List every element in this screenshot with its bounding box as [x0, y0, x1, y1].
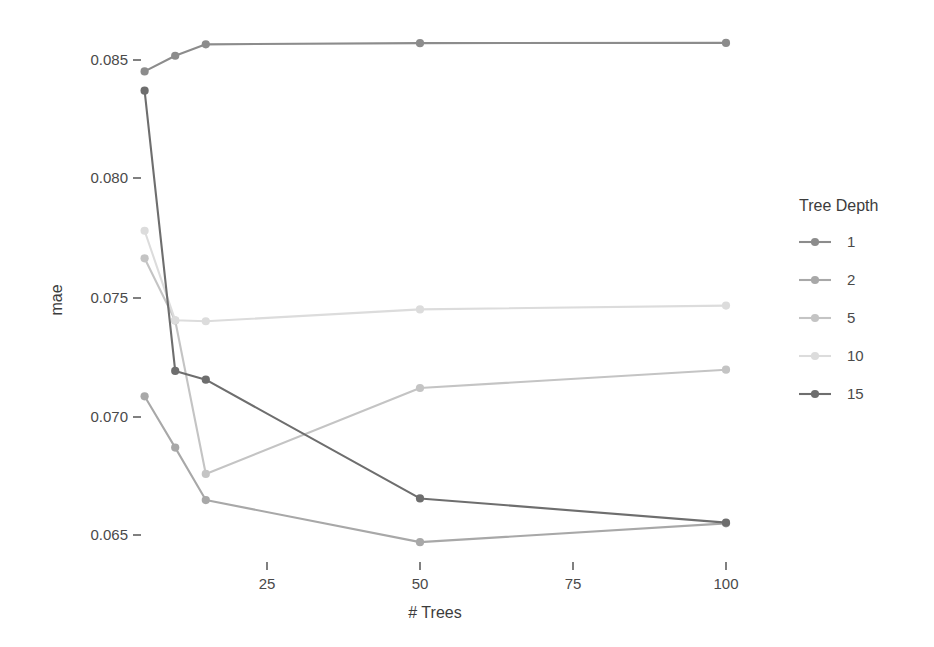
series-line — [145, 231, 726, 321]
legend-key-point — [811, 352, 819, 360]
data-point — [202, 317, 210, 325]
chart-container: 0.085 0.080 0.075 0.070 0.065 mae 25 50 — [0, 0, 934, 647]
legend-item-10[interactable]: 10 — [799, 347, 864, 364]
data-point — [416, 39, 424, 47]
data-point — [141, 67, 149, 75]
data-point — [722, 39, 730, 47]
data-point — [141, 254, 149, 262]
legend-key-point — [811, 276, 819, 284]
legend-key-point — [811, 314, 819, 322]
series-2 — [141, 392, 731, 546]
legend-label: 5 — [847, 309, 855, 326]
legend-item-5[interactable]: 5 — [799, 309, 855, 326]
legend-label: 10 — [847, 347, 864, 364]
series-5 — [141, 254, 731, 478]
x-tick-label: 25 — [259, 575, 276, 592]
data-point — [171, 52, 179, 60]
data-point — [202, 470, 210, 478]
data-point — [171, 316, 179, 324]
legend: Tree Depth 1251015 — [799, 197, 878, 402]
y-axis-tick-marks — [133, 60, 141, 535]
y-axis-tick-labels: 0.085 0.080 0.075 0.070 0.065 — [90, 51, 128, 543]
series-line — [145, 43, 726, 72]
data-point — [171, 367, 179, 375]
data-point — [416, 305, 424, 313]
data-point — [171, 444, 179, 452]
data-point — [416, 384, 424, 392]
data-point — [722, 301, 730, 309]
y-tick-label: 0.065 — [90, 526, 128, 543]
x-tick-label: 75 — [565, 575, 582, 592]
series-1 — [141, 39, 731, 76]
data-series-layer — [141, 39, 731, 546]
legend-key-point — [811, 390, 819, 398]
data-point — [202, 376, 210, 384]
line-chart-plot: 0.085 0.080 0.075 0.070 0.065 mae 25 50 — [0, 0, 934, 647]
y-tick-label: 0.070 — [90, 408, 128, 425]
legend-item-1[interactable]: 1 — [799, 233, 855, 250]
y-tick-label: 0.085 — [90, 51, 128, 68]
data-point — [416, 538, 424, 546]
x-tick-label: 50 — [412, 575, 429, 592]
data-point — [722, 519, 730, 527]
data-point — [202, 40, 210, 48]
data-point — [202, 496, 210, 504]
data-point — [416, 494, 424, 502]
legend-item-2[interactable]: 2 — [799, 271, 855, 288]
series-line — [145, 258, 726, 474]
series-line — [145, 396, 726, 542]
data-point — [722, 366, 730, 374]
legend-label: 2 — [847, 271, 855, 288]
x-axis-tick-labels: 25 50 75 100 — [259, 575, 739, 592]
x-axis-title: # Trees — [408, 604, 461, 621]
legend-entries: 1251015 — [799, 233, 864, 402]
data-point — [141, 87, 149, 95]
legend-key-point — [811, 238, 819, 246]
legend-item-15[interactable]: 15 — [799, 385, 864, 402]
legend-label: 15 — [847, 385, 864, 402]
legend-title: Tree Depth — [799, 197, 878, 214]
legend-label: 1 — [847, 233, 855, 250]
data-point — [141, 392, 149, 400]
x-axis-tick-marks — [267, 562, 726, 570]
y-axis-title: mae — [48, 284, 65, 315]
series-10 — [141, 227, 731, 326]
y-tick-label: 0.080 — [90, 169, 128, 186]
y-tick-label: 0.075 — [90, 289, 128, 306]
x-tick-label: 100 — [713, 575, 738, 592]
data-point — [141, 227, 149, 235]
